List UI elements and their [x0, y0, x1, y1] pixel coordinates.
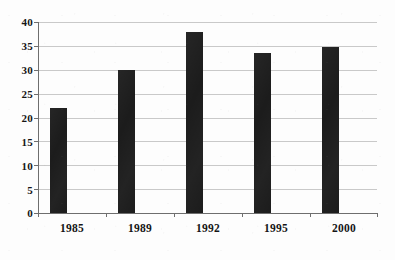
- y-tick-label-0: 0: [5, 208, 33, 219]
- y-tick-mark-40: [34, 22, 39, 23]
- bar-1992: [186, 32, 203, 213]
- bar-chart: 40 35 30 25 20 15 10 5 0: [0, 0, 395, 260]
- y-tick-mark-15: [34, 141, 39, 142]
- x-tick-mark-4: [310, 213, 311, 217]
- y-tick-mark-35: [34, 46, 39, 47]
- x-tick-mark-2: [174, 213, 175, 217]
- y-tick-label-30: 30: [5, 65, 33, 76]
- y-tick-mark-25: [34, 94, 39, 95]
- y-tick-mark-10: [34, 165, 39, 166]
- x-tick-label-2000: 2000: [312, 222, 376, 235]
- bar-2000: [322, 47, 339, 213]
- y-tick-label-40: 40: [5, 17, 33, 28]
- y-tick-label-35: 35: [5, 41, 33, 52]
- x-tick-mark-0: [38, 213, 39, 217]
- x-tick-label-1992: 1992: [176, 222, 240, 235]
- x-tick-mark-5: [377, 213, 378, 217]
- y-tick-mark-30: [34, 70, 39, 71]
- bar-1995: [254, 53, 271, 213]
- x-tick-label-1989: 1989: [108, 222, 172, 235]
- gridline-40: [38, 22, 377, 23]
- y-tick-label-15: 15: [5, 137, 33, 148]
- y-tick-label-25: 25: [5, 89, 33, 100]
- x-tick-mark-1: [106, 213, 107, 217]
- x-tick-mark-3: [242, 213, 243, 217]
- y-tick-label-10: 10: [5, 161, 33, 172]
- y-tick-label-20: 20: [5, 113, 33, 124]
- y-tick-mark-5: [34, 189, 39, 190]
- x-axis-line: [38, 213, 377, 214]
- bar-1989: [118, 70, 135, 213]
- bar-1985: [50, 108, 67, 213]
- x-tick-label-1995: 1995: [244, 222, 308, 235]
- x-tick-label-1985: 1985: [40, 222, 104, 235]
- y-tick-mark-20: [34, 118, 39, 119]
- plot-area: [38, 22, 377, 213]
- y-tick-label-5: 5: [5, 185, 33, 196]
